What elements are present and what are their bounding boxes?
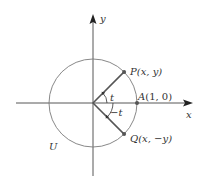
point-a-name: A	[137, 91, 145, 102]
angle-neg-sign: −	[110, 107, 118, 118]
point-a-label: A(1, 0)	[137, 91, 172, 102]
x-axis-label: x	[186, 109, 192, 120]
angle-neg-t: t	[118, 107, 123, 118]
radius-to-p	[93, 72, 124, 103]
angle-t-arc	[102, 92, 108, 103]
y-axis-label: y	[99, 13, 106, 24]
angle-t-label: t	[110, 92, 115, 103]
point-q	[122, 132, 126, 136]
unit-circle-diagram: y x P(x, y) A(1, 0) Q(x, −y) t −t U	[0, 0, 201, 186]
point-q-label: Q(x, −y)	[130, 133, 172, 144]
circle-label-u: U	[49, 141, 58, 152]
point-p-coords: (x, y)	[137, 66, 163, 77]
point-q-name: Q	[130, 133, 138, 144]
y-axis	[90, 14, 97, 176]
point-a-coords: (1, 0)	[145, 91, 172, 102]
angle-neg-t-label: −t	[110, 107, 123, 118]
point-p	[122, 70, 126, 74]
point-q-coords: (x, −y)	[138, 133, 172, 144]
point-p-label: P(x, y)	[129, 66, 162, 77]
